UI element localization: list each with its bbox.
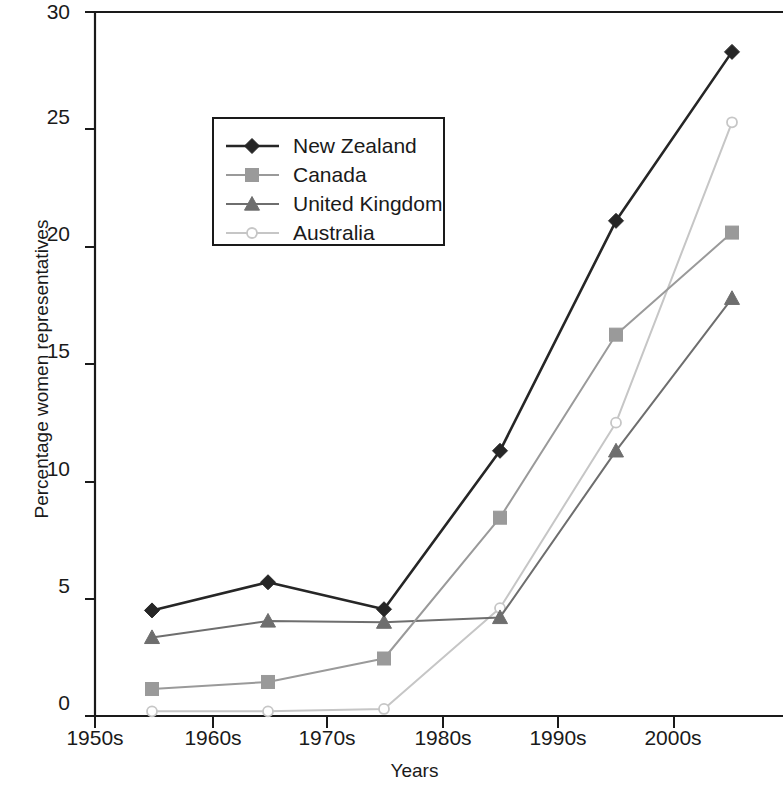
- data-point: [494, 511, 507, 524]
- legend-label: Canada: [293, 163, 367, 186]
- legend-label: New Zealand: [293, 134, 417, 157]
- chart-legend: New ZealandCanadaUnited KingdomAustralia: [213, 118, 444, 245]
- data-point: [262, 675, 275, 688]
- y-axis-ticks: [85, 12, 95, 716]
- data-point: [263, 706, 273, 716]
- data-point: [611, 418, 621, 428]
- data-point: [261, 575, 276, 590]
- data-point: [146, 683, 159, 696]
- data-point: [609, 213, 624, 228]
- data-point: [610, 328, 623, 341]
- legend-marker-square: [246, 169, 259, 182]
- data-point: [378, 652, 391, 665]
- legend-marker-open-circle: [247, 228, 257, 238]
- data-point: [727, 117, 737, 127]
- legend-label: Australia: [293, 221, 375, 244]
- plot-area: New ZealandCanadaUnited KingdomAustralia: [0, 0, 783, 793]
- data-point: [726, 226, 739, 239]
- data-point: [725, 44, 740, 59]
- chart-figure: Percentage women representatives 30 25 2…: [0, 0, 783, 793]
- legend-label: United Kingdom: [293, 192, 442, 215]
- data-point: [145, 603, 160, 618]
- data-point: [379, 704, 389, 714]
- data-point: [725, 291, 740, 305]
- x-axis-ticks: [95, 716, 674, 728]
- data-point: [147, 706, 157, 716]
